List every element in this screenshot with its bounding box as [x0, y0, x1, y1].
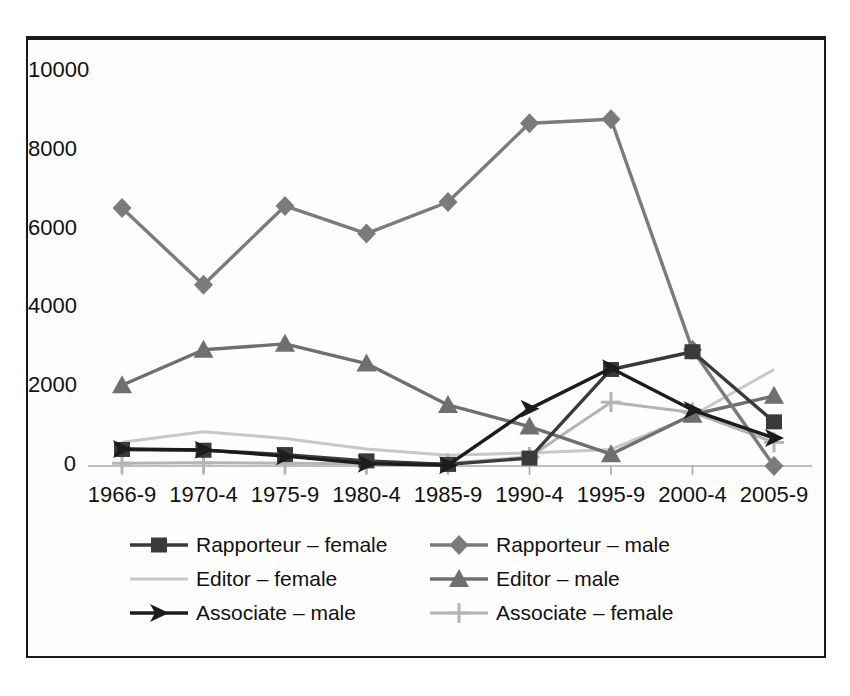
legend-swatch-cross-icon: [428, 601, 490, 625]
y-tick-label: 2000: [28, 374, 76, 396]
square-marker: [685, 344, 701, 359]
diamond-marker: [357, 224, 376, 244]
legend-item-label: Associate – female: [496, 601, 673, 625]
legend-swatch-diamond-icon: [428, 533, 490, 557]
triangle-marker: [112, 375, 132, 393]
legend-item[interactable]: Rapporteur – male: [428, 533, 748, 557]
triangle-marker: [438, 395, 458, 413]
legend-swatch-square-icon: [128, 533, 190, 557]
y-tick-label: 10000: [28, 59, 76, 81]
x-tick-label: 1966-9: [77, 484, 167, 506]
series-line: [122, 119, 774, 466]
legend-item[interactable]: Associate – male: [128, 601, 428, 625]
x-tick-label: 1980-4: [322, 484, 412, 506]
legend-item-label: Associate – male: [196, 601, 356, 625]
y-tick-label: 8000: [28, 138, 76, 160]
triangle-marker: [764, 386, 784, 404]
legend-item[interactable]: Associate – female: [428, 601, 748, 625]
y-tick-label: 6000: [28, 217, 76, 239]
y-tick-label: 0: [28, 453, 76, 475]
square-marker: [766, 414, 782, 429]
x-tick-label: 1995-9: [566, 484, 656, 506]
y-tick-label: 4000: [28, 295, 76, 317]
arrow-marker: [521, 400, 540, 418]
legend-swatch-triangle-icon: [428, 567, 490, 591]
x-tick-label: 2005-9: [729, 484, 819, 506]
legend-swatch-none-icon: [128, 567, 190, 591]
square-marker: [151, 538, 167, 553]
legend-item-label: Rapporteur – male: [496, 533, 670, 557]
legend-swatch-arrow-icon: [128, 601, 190, 625]
x-tick-label: 1970-4: [159, 484, 249, 506]
square-marker: [522, 451, 538, 466]
x-tick-label: 1990-4: [485, 484, 575, 506]
x-tick-label: 1985-9: [403, 484, 493, 506]
legend-item-label: Editor – male: [496, 567, 620, 591]
legend-item[interactable]: Editor – female: [128, 567, 428, 591]
legend-item[interactable]: Editor – male: [428, 567, 748, 591]
series-line: [122, 368, 774, 465]
cross-marker: [449, 603, 469, 623]
cross-marker: [601, 392, 621, 412]
legend-item-label: Editor – female: [196, 567, 337, 591]
legend-item-label: Rapporteur – female: [196, 533, 387, 557]
chart-frame: 0200040006000800010000 1966-91970-41975-…: [26, 36, 826, 658]
x-tick-label: 2000-4: [648, 484, 738, 506]
x-tick-label: 1975-9: [240, 484, 330, 506]
chart-legend: Rapporteur – femaleRapporteur – maleEdit…: [128, 528, 748, 630]
legend-item[interactable]: Rapporteur – female: [128, 533, 428, 557]
diamond-marker: [602, 109, 621, 129]
diamond-marker: [450, 535, 469, 555]
